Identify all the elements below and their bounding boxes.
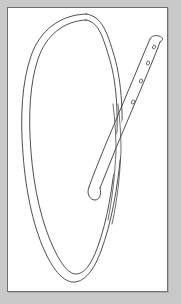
free-end-right-edge [100, 42, 160, 188]
drawing-card [7, 7, 168, 292]
belt-free-end-group [88, 36, 165, 200]
free-end-fill [94, 38, 166, 199]
belt-loop-figure [8, 8, 169, 293]
loop-inner-contour [30, 20, 117, 274]
image-canvas [0, 0, 181, 304]
belt-loop-group [22, 14, 122, 282]
loop-outer-contour [22, 14, 122, 282]
